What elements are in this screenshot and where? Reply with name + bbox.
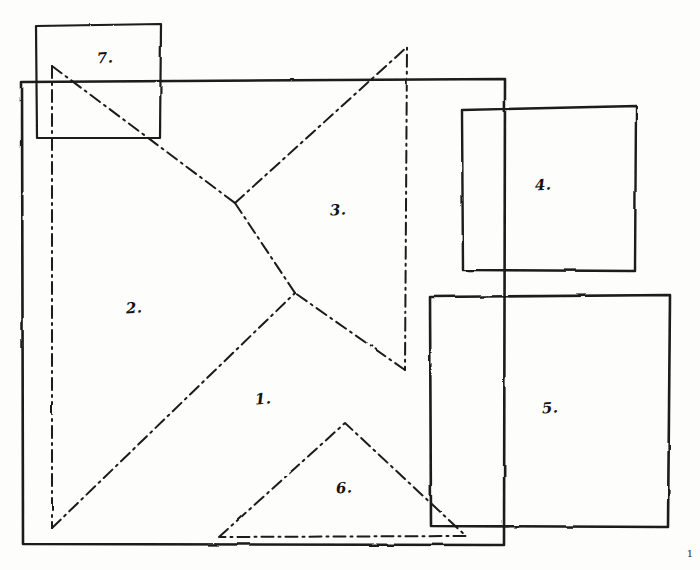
label-piece-1: 1. bbox=[254, 389, 272, 408]
label-piece-7: 7. bbox=[96, 48, 114, 67]
triangle-3-dashdot bbox=[235, 47, 407, 370]
label-piece-3: 3. bbox=[329, 200, 347, 219]
page-corner-mark: 1 bbox=[687, 548, 693, 559]
label-piece-6: 6. bbox=[335, 478, 353, 497]
triangle-1-edge-dashdot bbox=[235, 203, 295, 293]
main-frame-rectangle bbox=[22, 79, 505, 545]
label-piece-4: 4. bbox=[534, 175, 552, 194]
drawing-canvas: 1.2.3.4.5.6.7. 1 bbox=[0, 0, 700, 570]
dashdot-fold-line-layer bbox=[52, 47, 466, 537]
triangle-3-lower-edge-dashdot bbox=[295, 293, 405, 370]
label-piece-5: 5. bbox=[541, 398, 559, 417]
label-piece-2: 2. bbox=[125, 298, 143, 317]
triangle-2-hypotenuse-dashdot bbox=[52, 66, 235, 203]
long-diagonal-dashdot bbox=[52, 293, 295, 528]
